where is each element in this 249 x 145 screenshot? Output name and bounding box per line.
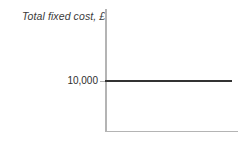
fixed-cost-series-line (105, 80, 232, 82)
x-axis-line (105, 131, 238, 133)
y-axis-line (105, 9, 107, 132)
y-axis-tick-label: 10,000 (40, 75, 98, 87)
chart-title: Total fixed cost, £ (22, 10, 105, 23)
fixed-cost-chart: Total fixed cost, £ 10,000 (0, 0, 249, 145)
